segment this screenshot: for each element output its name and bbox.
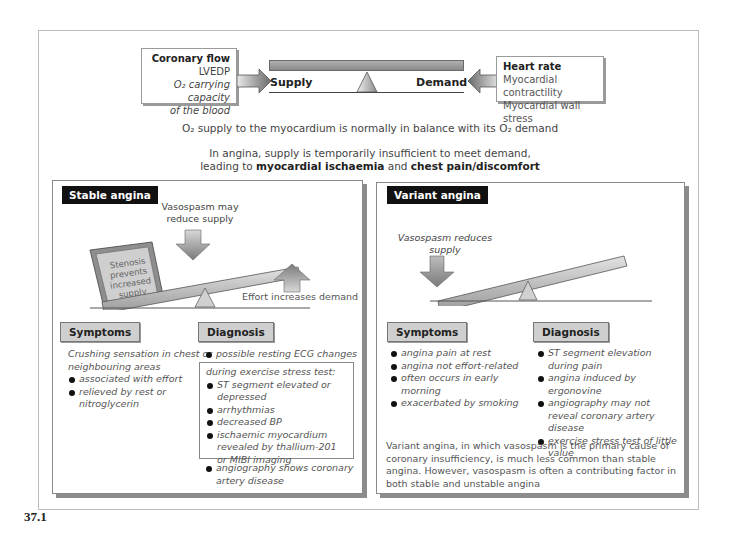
text-fragment: and (384, 160, 410, 172)
symptom-item: relieved by rest or nitroglycerin (68, 386, 216, 411)
stress-test-item: ischaemic myocardium revealed by thalliu… (206, 429, 347, 467)
symptom-item: exacerbated by smoking (390, 397, 530, 410)
fulcrum-icon (356, 71, 378, 93)
symptom-intro: Crushing sensation in chest or neighbour… (68, 348, 216, 373)
symptom-item: angina pain at rest (390, 347, 530, 360)
text-line: Vasospasm reduces (390, 232, 500, 244)
supply-factor: of the blood (148, 104, 230, 117)
ischaemia-term: myocardial ischaemia (256, 160, 384, 172)
symptom-item: associated with effort (68, 373, 216, 386)
variant-diagnosis-heading: Diagnosis (533, 322, 609, 342)
stress-test-item: ST segment elevated or depressed (206, 379, 347, 404)
symptom-item: angina not effort-related (390, 360, 530, 373)
diagnosis-item: angiography may not reveal coronary arte… (537, 397, 677, 435)
variant-seesaw-diagram (420, 254, 660, 306)
balance-beam (269, 60, 464, 71)
stable-symptoms-list: Crushing sensation in chest or neighbour… (68, 348, 216, 411)
balance-ground-line (269, 92, 464, 93)
variant-angina-title: Variant angina (387, 186, 488, 204)
stress-test-heading: during exercise stress test: (206, 366, 347, 379)
angina-statement-line1: In angina, supply is temporarily insuffi… (140, 147, 600, 159)
effort-arrow-icon (274, 264, 310, 292)
supply-factors-box: Coronary flow LVEDP O₂ carrying capacity… (141, 48, 237, 104)
stable-symptoms-heading: Symptoms (60, 322, 140, 342)
stable-diagnosis-list: possible resting ECG changes (205, 348, 357, 361)
vasospasm-arrow-icon (420, 256, 454, 287)
angiography-item: angiography shows coronary artery diseas… (205, 462, 355, 487)
angina-statement-line2: leading to myocardial ischaemia and ches… (140, 160, 600, 172)
demand-factor: Myocardial contractility (503, 73, 597, 99)
diagnosis-item: angiography shows coronary artery diseas… (205, 462, 355, 487)
variant-symptoms-list: angina pain at rest angina not effort-re… (390, 347, 530, 410)
supply-label: Supply (270, 76, 312, 89)
variant-symptoms-heading: Symptoms (387, 322, 467, 342)
chest-pain-term: chest pain/discomfort (411, 160, 540, 172)
stress-test-item: arrhythmias (206, 404, 347, 417)
symptom-item: often occurs in early morning (390, 372, 530, 397)
supply-factor: LVEDP (148, 65, 230, 78)
stable-diagnosis-heading: Diagnosis (198, 322, 274, 342)
balance-statement: O₂ supply to the myocardium is normally … (140, 122, 600, 134)
figure-label: 37.1 (24, 509, 47, 525)
stress-test-box: during exercise stress test: ST segment … (199, 362, 354, 459)
demand-factors-box: Heart rate Myocardial contractility Myoc… (496, 56, 604, 102)
demand-label: Demand (416, 76, 467, 89)
effort-label: Effort increases demand (242, 291, 358, 302)
diagnosis-item: possible resting ECG changes (205, 348, 357, 361)
supply-arrow-icon (237, 68, 273, 94)
text-fragment: leading to (200, 160, 256, 172)
supply-factor: O₂ carrying capacity (148, 78, 230, 104)
stress-test-item: decreased BP (206, 416, 347, 429)
variant-footnote: Variant angina, in which vasospasm is th… (386, 440, 678, 490)
variant-vasospasm-label: Vasospasm reduces supply (390, 232, 500, 256)
diagnosis-item: ST segment elevation during pain (537, 347, 677, 372)
vasospasm-arrow-icon (176, 230, 210, 260)
supply-factor-title: Coronary flow (148, 52, 230, 65)
demand-factor-title: Heart rate (503, 60, 597, 73)
diagnosis-item: angina induced by ergonovine (537, 372, 677, 397)
text-line: Vasospasm may (140, 201, 260, 213)
